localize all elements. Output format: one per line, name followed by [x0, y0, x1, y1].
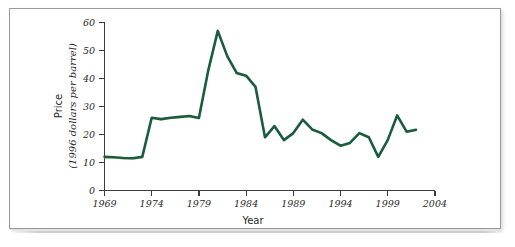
- x-tick-label-1969: 1969: [92, 198, 116, 209]
- y-tick-label-50: 50: [83, 45, 95, 56]
- y-axis-ticks: [99, 23, 105, 191]
- x-tick-label-1994: 1994: [328, 198, 352, 209]
- x-tick-label-1979: 1979: [187, 198, 211, 209]
- y-tick-label-0: 0: [89, 185, 95, 196]
- y-tick-label-10: 10: [83, 157, 95, 168]
- x-tick-label-1984: 1984: [234, 198, 258, 209]
- x-axis-tick-labels: 1969 1974 1979 1984 1989 1994 1999 2004: [92, 198, 447, 209]
- x-axis-ticks: [105, 191, 435, 197]
- x-tick-label-2004: 2004: [422, 198, 447, 209]
- y-tick-label-20: 20: [82, 129, 95, 140]
- x-tick-label-1989: 1989: [281, 198, 305, 209]
- y-tick-label-40: 40: [82, 73, 95, 84]
- x-tick-label-1974: 1974: [140, 198, 164, 209]
- y-axis-title-line2: (1996 dollars per barrel): [67, 43, 78, 169]
- y-axis-tick-labels: 60 50 40 30 20 10 0: [82, 17, 95, 196]
- figure-root: 60 50 40 30 20 10 0 1969 1974 1979 1984 …: [0, 0, 515, 247]
- oil-price-series-line: [105, 31, 417, 158]
- y-tick-label-30: 30: [83, 101, 95, 112]
- x-tick-label-1999: 1999: [376, 198, 400, 209]
- y-axis-title-line1: Price: [53, 94, 64, 118]
- y-tick-label-60: 60: [83, 17, 95, 28]
- line-chart: 60 50 40 30 20 10 0 1969 1974 1979 1984 …: [0, 0, 515, 247]
- x-axis-title: Year: [241, 215, 264, 226]
